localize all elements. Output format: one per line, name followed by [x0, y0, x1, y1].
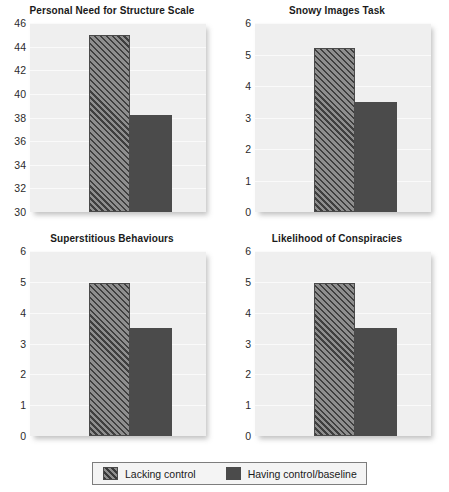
panel-personal-need-for-structure-scale: Personal Need for Structure Scale 303234…	[0, 2, 224, 228]
y-axis-tick-label: 4	[245, 307, 251, 319]
plot-area	[255, 251, 431, 436]
y-axis-tick-label: 5	[245, 49, 251, 61]
panel-grid: Personal Need for Structure Scale 303234…	[0, 0, 449, 455]
y-axis-tick-label: 2	[20, 368, 26, 380]
bar-having-control-baseline	[355, 102, 396, 212]
plot-area	[30, 251, 206, 436]
legend-item-having-control-baseline: Having control/baseline	[226, 467, 357, 480]
y-axis-tick-label: 1	[245, 175, 251, 187]
legend-label: Lacking control	[125, 468, 196, 480]
gridline	[30, 251, 206, 252]
y-axis-tick-label: 3	[20, 338, 26, 350]
y-axis-tick-label: 5	[20, 276, 26, 288]
hatched-swatch-icon	[103, 467, 118, 480]
y-axis-tick-label: 32	[14, 182, 26, 194]
y-axis-tick-label: 0	[20, 430, 26, 442]
y-axis-tick-label: 42	[14, 64, 26, 76]
y-axis-tick-label: 6	[245, 17, 251, 29]
panel-superstitious-behaviours: Superstitious Behaviours 0123456	[0, 230, 224, 452]
gridline	[255, 23, 431, 24]
plot-wrap: 0123456	[255, 251, 431, 436]
bar-having-control-baseline	[130, 115, 171, 212]
chart-legend: Lacking control Having control/baseline	[92, 462, 367, 485]
y-axis-tick-label: 1	[245, 399, 251, 411]
y-axis-tick-label: 2	[245, 143, 251, 155]
panel-title: Superstitious Behaviours	[0, 233, 224, 244]
y-axis-tick-label: 6	[20, 245, 26, 257]
y-axis-tick-label: 3	[245, 112, 251, 124]
y-axis-tick-label: 6	[245, 245, 251, 257]
y-axis-tick-label: 1	[20, 399, 26, 411]
legend-item-lacking-control: Lacking control	[103, 467, 196, 480]
panel-title: Snowy Images Task	[225, 5, 449, 16]
y-axis-tick-label: 2	[245, 368, 251, 380]
y-axis-tick-label: 34	[14, 159, 26, 171]
panel-title: Personal Need for Structure Scale	[0, 5, 224, 16]
plot-area	[30, 23, 206, 212]
bar-lacking-control	[89, 35, 130, 212]
gridline	[255, 251, 431, 252]
panel-snowy-images-task: Snowy Images Task 0123456	[225, 2, 449, 228]
legend-label: Having control/baseline	[248, 468, 357, 480]
plot-wrap: 0123456	[30, 251, 206, 436]
bar-lacking-control	[89, 283, 130, 436]
y-axis-tick-label: 3	[245, 338, 251, 350]
panel-title: Likelihood of Conspiracies	[225, 233, 449, 244]
y-axis-tick-label: 38	[14, 112, 26, 124]
bar-having-control-baseline	[130, 328, 171, 436]
plot-wrap: 0123456	[255, 23, 431, 212]
figure-small-multiples-bar-chart: Personal Need for Structure Scale 303234…	[0, 0, 449, 492]
gridline	[30, 23, 206, 24]
y-axis-tick-label: 4	[245, 80, 251, 92]
plot-area	[255, 23, 431, 212]
y-axis-tick-label: 5	[245, 276, 251, 288]
y-axis-tick-label: 44	[14, 41, 26, 53]
bar-lacking-control	[314, 283, 355, 436]
bar-having-control-baseline	[355, 328, 396, 436]
y-axis-tick-label: 0	[245, 206, 251, 218]
y-axis-tick-label: 30	[14, 206, 26, 218]
solid-swatch-icon	[226, 467, 241, 480]
y-axis-tick-label: 36	[14, 135, 26, 147]
panel-likelihood-of-conspiracies: Likelihood of Conspiracies 0123456	[225, 230, 449, 452]
y-axis-tick-label: 46	[14, 17, 26, 29]
bar-lacking-control	[314, 48, 355, 212]
y-axis-tick-label: 0	[245, 430, 251, 442]
y-axis-tick-label: 4	[20, 307, 26, 319]
y-axis-tick-label: 40	[14, 88, 26, 100]
plot-wrap: 303234363840424446	[30, 23, 206, 212]
